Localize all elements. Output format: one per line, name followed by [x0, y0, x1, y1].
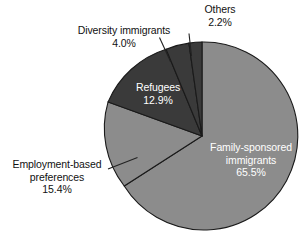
slice-label-others: Others 2.2%	[190, 3, 250, 28]
slice-label-refugees: Refugees 12.9%	[121, 81, 195, 106]
slice-label-family-sponsored-text: Family-sponsored	[210, 141, 292, 153]
slice-label-employment-based-text2: preferences	[2, 171, 112, 184]
slice-label-diversity-immigrants-value: 4.0%	[58, 37, 190, 50]
pie-chart-figure: Others 2.2% Diversity immigrants 4.0% Re…	[0, 0, 304, 233]
slice-label-diversity-immigrants-text: Diversity immigrants	[78, 24, 171, 36]
slice-label-diversity-immigrants: Diversity immigrants 4.0%	[58, 24, 190, 49]
slice-label-others-value: 2.2%	[190, 16, 250, 29]
slice-label-refugees-value: 12.9%	[121, 94, 195, 107]
slice-label-employment-based-value: 15.4%	[2, 183, 112, 196]
slice-label-family-sponsored-value: 65.5%	[202, 166, 300, 179]
slice-label-employment-based-text: Employment-based	[13, 158, 102, 170]
slice-label-others-text: Others	[205, 3, 236, 15]
slice-label-family-sponsored: Family-sponsored immigrants 65.5%	[202, 141, 300, 179]
slice-label-family-sponsored-text2: immigrants	[202, 154, 300, 167]
slice-label-employment-based: Employment-based preferences 15.4%	[2, 158, 112, 196]
slice-label-refugees-text: Refugees	[136, 81, 180, 93]
